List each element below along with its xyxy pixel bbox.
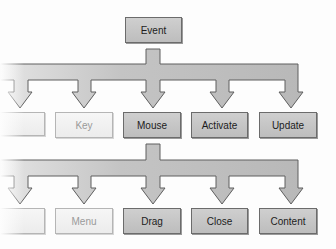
node-drag: Drag [123,208,181,234]
node-label: Key [75,120,92,131]
node-mouse: Mouse [123,112,181,138]
arrow-level1 [0,49,303,108]
node-menu: Menu [55,208,113,234]
left-fade-overlay [0,0,24,249]
node-label: Mouse [137,120,167,131]
node-key: Key [55,112,113,138]
arrow-level2 [0,144,303,204]
node-update: Update [259,112,317,138]
node-label: Drag [141,216,163,227]
node-label: Close [207,216,233,227]
node-content: Content [259,208,317,234]
node-activate: Activate [191,112,248,138]
node-label: Content [270,216,305,227]
node-label: Menu [71,216,96,227]
node-label: Update [272,120,304,131]
node-event: Event [125,17,182,43]
node-close: Close [191,208,248,234]
node-label: Event [141,25,167,36]
node-label: Activate [202,120,238,131]
